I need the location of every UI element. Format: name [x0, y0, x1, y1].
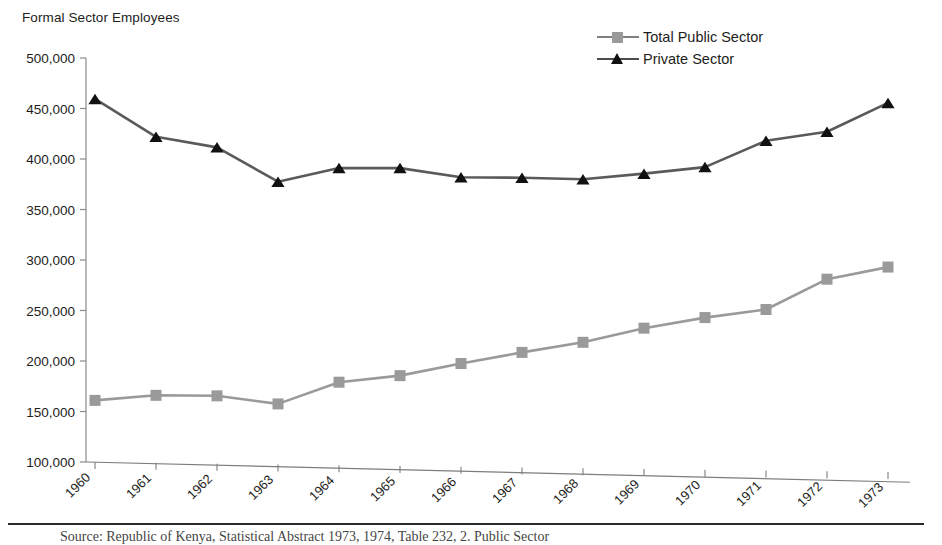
x-tick-label: 1966	[428, 474, 459, 505]
x-tick-label: 1965	[367, 473, 398, 504]
data-point-marker[interactable]: Total Public Sector 1969: 232,500	[639, 323, 650, 334]
data-point-marker[interactable]: Total Public Sector 1972: 281,000	[822, 274, 833, 285]
y-tick-label: 200,000	[26, 354, 75, 369]
x-axis: 1960196119621963196419651966196719681969…	[62, 462, 910, 511]
data-point-marker[interactable]: Total Public Sector 1971: 251,000	[761, 304, 772, 315]
x-tick-label: 1972	[794, 479, 825, 510]
x-tick-label: 1971	[733, 478, 764, 509]
y-tick-label: 400,000	[26, 152, 75, 167]
y-tick-label: 250,000	[26, 304, 75, 319]
data-point-marker[interactable]: Private Sector 1960: 459,500	[88, 94, 101, 105]
y-tick-label: 500,000	[26, 51, 75, 66]
chart-svg: 100,000150,000200,000250,000300,000350,0…	[0, 0, 942, 545]
data-point-marker[interactable]: Total Public Sector 1966: 197,500	[456, 358, 467, 369]
data-point-marker[interactable]: Total Public Sector 1960: 161,000	[90, 395, 101, 406]
x-tick-label: 1969	[611, 476, 642, 507]
data-point-marker[interactable]: Total Public Sector 1962: 165,500	[212, 390, 223, 401]
x-tick-label: 1968	[550, 476, 581, 507]
data-point-marker[interactable]: Total Public Sector 1970: 243,000	[700, 312, 711, 323]
data-point-marker[interactable]: Total Public Sector 1964: 179,000	[334, 377, 345, 388]
x-tick-label: 1970	[672, 477, 703, 508]
data-point-marker[interactable]: Total Public Sector 1968: 218,500	[578, 337, 589, 348]
y-tick-label: 100,000	[26, 455, 75, 470]
x-tick-label: 1963	[245, 472, 276, 503]
x-tick-label: 1962	[184, 471, 215, 502]
y-tick-label: 450,000	[26, 102, 75, 117]
y-axis: 100,000150,000200,000250,000300,000350,0…	[26, 51, 86, 470]
y-tick-label: 300,000	[26, 253, 75, 268]
x-tick-label: 1961	[123, 470, 154, 501]
y-tick-label: 150,000	[26, 405, 75, 420]
y-tick-label: 350,000	[26, 203, 75, 218]
data-series-group: Total Public Sector 1960: 161,000Total P…	[88, 94, 894, 410]
data-point-marker[interactable]: Private Sector 1973: 455,500	[881, 98, 894, 109]
x-tick-label: 1960	[62, 470, 93, 501]
data-point-marker[interactable]: Total Public Sector 1973: 293,000	[883, 262, 894, 273]
source-caption: Source: Republic of Kenya, Statistical A…	[60, 529, 920, 545]
data-point-marker[interactable]: Total Public Sector 1963: 157,500	[273, 398, 284, 409]
plot-area: 100,000150,000200,000250,000300,000350,0…	[0, 0, 942, 545]
caption-divider	[8, 523, 924, 525]
series-line-private-sector	[95, 99, 888, 182]
x-tick-label: 1973	[855, 480, 886, 511]
x-tick-label: 1967	[489, 475, 520, 506]
x-tick-label: 1964	[306, 473, 337, 504]
data-point-marker[interactable]: Total Public Sector 1965: 185,500	[395, 370, 406, 381]
data-point-marker[interactable]: Total Public Sector 1961: 166,000	[151, 390, 162, 401]
data-point-marker[interactable]: Total Public Sector 1967: 208,500	[517, 347, 528, 358]
series-line-total-public-sector	[95, 267, 888, 404]
